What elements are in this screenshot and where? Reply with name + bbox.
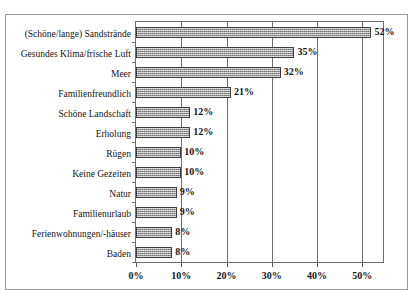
bar: [136, 147, 181, 158]
bar-row: 35%: [136, 43, 383, 63]
bar: [136, 27, 371, 38]
tick-30%: [272, 263, 273, 267]
bar-value-label: 32%: [284, 64, 304, 80]
category-label: Schöne Landschaft: [0, 104, 131, 124]
category-label: Gesundes Klima/frische Luft: [0, 44, 131, 64]
bar-value-label: 12%: [193, 124, 213, 140]
category-label-row: Erholung: [0, 124, 131, 144]
category-label: (Schöne/lange) Sandstrände: [0, 24, 131, 44]
tick-40%: [317, 263, 318, 267]
tick-0%: [136, 263, 137, 267]
bar: [136, 247, 172, 258]
category-label: Natur: [0, 184, 131, 204]
bar-row: 21%: [136, 83, 383, 103]
bar: [136, 207, 177, 218]
bar: [136, 167, 181, 178]
bar: [136, 67, 281, 78]
bar-row: 9%: [136, 203, 383, 223]
bar: [136, 47, 294, 58]
bar-value-label: 10%: [184, 164, 204, 180]
x-tick-label: 30%: [262, 270, 282, 282]
bar-value-label: 9%: [180, 204, 195, 220]
bar: [136, 127, 190, 138]
category-label-row: Schöne Landschaft: [0, 104, 131, 124]
category-label: Familienfreundlich: [0, 84, 131, 104]
category-label: Baden: [0, 244, 131, 264]
bar-row: 10%: [136, 163, 383, 183]
bar-value-label: 35%: [297, 44, 317, 60]
category-tick: [132, 262, 136, 263]
category-label: Keine Gezeiten: [0, 164, 131, 184]
bar: [136, 107, 190, 118]
bar-value-label: 8%: [175, 224, 190, 240]
bar-value-label: 9%: [180, 184, 195, 200]
figure-frame: 52%35%32%21%12%12%10%10%9%9%8%8% (Schöne…: [5, 14, 408, 290]
plot-area: 52%35%32%21%12%12%10%10%9%9%8%8% (Schöne…: [135, 21, 384, 263]
bar-row: 8%: [136, 223, 383, 243]
bar-value-label: 8%: [175, 244, 190, 260]
category-label-row: Familienurlaub: [0, 204, 131, 224]
bar-row: 12%: [136, 103, 383, 123]
bar-row: 12%: [136, 123, 383, 143]
category-label-row: Baden: [0, 244, 131, 264]
category-label: Ferienwohnungen/-häuser: [0, 224, 131, 244]
bar-row: 9%: [136, 183, 383, 203]
bar-row: 52%: [136, 23, 383, 43]
bar: [136, 87, 231, 98]
category-label: Familienurlaub: [0, 204, 131, 224]
category-label-row: Familienfreundlich: [0, 84, 131, 104]
category-label: Erholung: [0, 124, 131, 144]
x-tick-label: 10%: [171, 270, 191, 282]
category-label-row: (Schöne/lange) Sandstrände: [0, 24, 131, 44]
x-tick-label: 50%: [352, 270, 372, 282]
tick-20%: [227, 263, 228, 267]
category-label-row: Keine Gezeiten: [0, 164, 131, 184]
category-label-row: Gesundes Klima/frische Luft: [0, 44, 131, 64]
bar-row: 8%: [136, 243, 383, 263]
x-tick-label: 20%: [217, 270, 237, 282]
bar-row: 32%: [136, 63, 383, 83]
x-tick-label: 0%: [129, 270, 144, 282]
category-label-row: Rügen: [0, 144, 131, 164]
tick-50%: [362, 263, 363, 267]
category-label-row: Ferienwohnungen/-häuser: [0, 224, 131, 244]
bar: [136, 227, 172, 238]
category-label: Meer: [0, 64, 131, 84]
bar-row: 10%: [136, 143, 383, 163]
bar-value-label: 12%: [193, 104, 213, 120]
category-label: Rügen: [0, 144, 131, 164]
bar-value-label: 10%: [184, 144, 204, 160]
category-label-row: Meer: [0, 64, 131, 84]
bar: [136, 187, 177, 198]
bar-value-label: 52%: [374, 24, 394, 40]
x-tick-label: 40%: [307, 270, 327, 282]
bar-value-label: 21%: [234, 84, 254, 100]
category-label-row: Natur: [0, 184, 131, 204]
tick-10%: [181, 263, 182, 267]
